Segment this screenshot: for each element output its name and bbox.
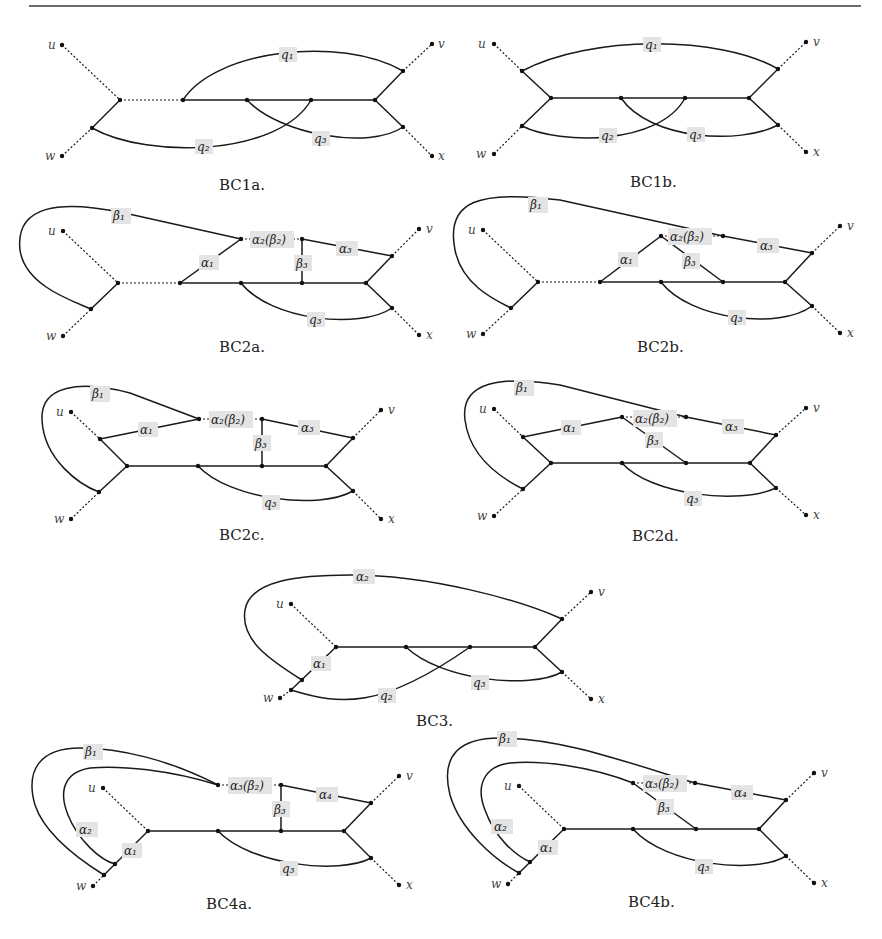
- edge-label-alpha2-beta2: α₂(β₂): [252, 233, 286, 247]
- terminal-w: w: [263, 691, 274, 705]
- terminal-x: x: [598, 692, 605, 706]
- edge-label-q3: q₃: [730, 311, 743, 325]
- edge-label-beta3: β₃: [657, 801, 670, 815]
- edge-label-q1: q₁: [645, 38, 658, 52]
- figure-canvas: u w v x q₁ q₂ q₃ BC1a. u w v x q: [0, 0, 882, 939]
- terminal-v: v: [406, 769, 413, 783]
- caption-bc2d: BC2d.: [632, 527, 679, 545]
- edge-label-beta1: β₁: [84, 745, 97, 759]
- edge-label-q2: q₂: [197, 140, 210, 154]
- edge-label-alpha2: α₂: [356, 570, 369, 584]
- panel-bc1a: u w v x q₁ q₂ q₃ BC1a.: [45, 37, 445, 194]
- edge-label-q3: q₃: [282, 862, 295, 876]
- caption-bc2a: BC2a.: [219, 338, 265, 356]
- terminal-v: v: [821, 766, 828, 780]
- panel-bc4b: u w v x β₁ α₂ α₁ α₃(β₂) β₃ α₄ q₃ BC4b.: [447, 731, 828, 911]
- edge-label-beta1: β₁: [91, 387, 104, 401]
- terminal-w: w: [76, 879, 87, 893]
- edge-label-q3: q₃: [264, 496, 277, 510]
- caption-bc2b: BC2b.: [637, 338, 684, 356]
- edge-label-alpha1: α₁: [140, 423, 153, 437]
- terminal-x: x: [821, 876, 828, 890]
- terminal-u: u: [88, 781, 96, 795]
- edge-label-beta1: β₁: [515, 381, 528, 395]
- edge-label-q3: q₃: [697, 860, 710, 874]
- terminal-x: x: [813, 508, 820, 522]
- edge-label-q3: q₃: [686, 492, 699, 506]
- terminal-u: u: [56, 405, 64, 419]
- edge-label-q2: q₂: [601, 129, 614, 143]
- panel-bc3: u w v x α₂ α₁ q₂ q₃ BC3.: [244, 569, 605, 730]
- terminal-u: u: [276, 597, 284, 611]
- caption-bc4b: BC4b.: [628, 893, 675, 911]
- terminal-w: w: [54, 512, 65, 526]
- terminal-x: x: [426, 328, 433, 342]
- caption-bc1a: BC1a.: [219, 176, 265, 194]
- terminal-u: u: [504, 779, 512, 793]
- edge-label-q2: q₂: [380, 689, 393, 703]
- panel-bc4a: u w v x β₁ α₂ α₁ α₃(β₂) β₃ α₄ q₃ BC4a.: [32, 744, 413, 913]
- terminal-w: w: [45, 149, 56, 163]
- terminal-x: x: [406, 878, 413, 892]
- edge-label-alpha1: α₁: [201, 256, 214, 270]
- caption-bc1b: BC1b.: [630, 173, 677, 191]
- terminal-w: w: [46, 329, 57, 343]
- terminal-w: w: [466, 327, 477, 341]
- terminal-u: u: [48, 38, 56, 52]
- edge-label-q3: q₃: [314, 132, 327, 146]
- terminal-w: w: [491, 877, 502, 891]
- panel-bc2a: u w v x β₁ α₁ α₂(β₂) β₃ α₃ q₃ BC2a.: [20, 206, 433, 356]
- terminal-v: v: [813, 401, 820, 415]
- terminal-v: v: [438, 37, 445, 51]
- edge-label-alpha1: α₁: [124, 844, 137, 858]
- edge-label-alpha2: α₂: [79, 823, 92, 837]
- edge-label-alpha1: α₁: [563, 421, 576, 435]
- edge-label-alpha3: α₃: [301, 421, 314, 435]
- terminal-v: v: [388, 403, 395, 417]
- edge-label-q1: q₁: [281, 48, 294, 62]
- terminal-u: u: [479, 402, 487, 416]
- terminal-u: u: [48, 224, 56, 238]
- terminal-u: u: [468, 223, 476, 237]
- edge-label-alpha2-beta2: α₂(β₂): [211, 413, 245, 427]
- panel-bc2d: u w v x β₁ α₁ α₂(β₂) β₃ α₃ q₃ BC2d.: [465, 380, 820, 545]
- edge-label-alpha2-beta2: α₂(β₂): [670, 230, 704, 244]
- terminal-u: u: [478, 37, 486, 51]
- edge-label-beta1: β₁: [498, 732, 511, 746]
- terminal-v: v: [813, 35, 820, 49]
- edge-label-beta3: β₃: [646, 434, 659, 448]
- edge-label-alpha1: α₁: [540, 841, 553, 855]
- terminal-x: x: [813, 145, 820, 159]
- edge-label-alpha4: α₄: [734, 786, 747, 800]
- terminal-v: v: [598, 585, 605, 599]
- terminal-w: w: [477, 509, 488, 523]
- panel-bc2b: u w v x β₁ α₁ α₂(β₂) β₃ α₃ q₃ BC2b.: [453, 197, 854, 356]
- edge-label-alpha3: α₃: [339, 242, 352, 256]
- terminal-x: x: [388, 512, 395, 526]
- edge-label-alpha3-beta2: α₃(β₂): [230, 779, 264, 793]
- caption-bc4a: BC4a.: [206, 895, 252, 913]
- terminal-w: w: [476, 147, 487, 161]
- edge-label-beta1: β₁: [112, 209, 125, 223]
- edge-label-alpha3: α₃: [760, 239, 773, 253]
- terminal-x: x: [847, 326, 854, 340]
- edge-label-alpha3: α₃: [725, 420, 738, 434]
- edge-label-beta3: β₃: [254, 437, 267, 451]
- edge-label-q3: q₃: [309, 313, 322, 327]
- edge-label-beta3: β₃: [683, 255, 696, 269]
- terminal-x: x: [438, 149, 445, 163]
- edge-label-alpha1: α₁: [620, 253, 633, 267]
- panel-bc1b: u w v x q₁ q₂ q₃ BC1b.: [476, 35, 820, 191]
- caption-bc2c: BC2c.: [219, 526, 265, 544]
- edge-label-alpha4: α₄: [319, 788, 332, 802]
- edge-label-alpha3-beta2: α₃(β₂): [645, 777, 679, 791]
- terminal-v: v: [847, 219, 854, 233]
- edge-label-beta1: β₁: [529, 198, 542, 212]
- edge-label-q3: q₃: [689, 128, 702, 142]
- edge-label-alpha2-beta2: α₂(β₂): [635, 412, 669, 426]
- terminal-v: v: [426, 222, 433, 236]
- caption-bc3: BC3.: [416, 712, 453, 730]
- edge-label-alpha2: α₂: [494, 820, 507, 834]
- edge-label-q3: q₃: [473, 676, 486, 690]
- edge-label-alpha1: α₁: [313, 657, 326, 671]
